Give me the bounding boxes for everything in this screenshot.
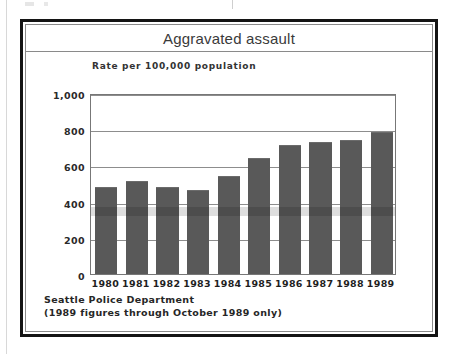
chart-title-band: Aggravated assault (26, 25, 432, 52)
chart-body: Rate per 100,000 population 020040060080… (26, 52, 432, 331)
x-axis-tick-label-1981: 1981 (122, 278, 150, 289)
chart-title: Aggravated assault (163, 30, 295, 47)
x-axis-tick-label-1987: 1987 (306, 278, 334, 289)
y-axis-tick-label: 1,000 (53, 90, 85, 101)
bar-1984 (218, 176, 240, 274)
x-axis-tick-label-1986: 1986 (275, 278, 303, 289)
x-axis-tick-label-1985: 1985 (244, 278, 272, 289)
y-axis-tick-label: 0 (78, 271, 85, 282)
bar-1980 (95, 187, 117, 274)
scan-artifact-left-edge (6, 0, 7, 354)
scan-artifact-speck-a (25, 2, 34, 6)
y-axis-unit-label: Rate per 100,000 population (92, 61, 256, 71)
source-line-2: (1989 figures through October 1989 only) (44, 306, 282, 319)
source-note: Seattle Police Department(1989 figures t… (44, 293, 282, 319)
bar-1986 (279, 145, 301, 274)
x-axis-tick-label-1989: 1989 (367, 278, 395, 289)
x-axis-tick-label-1988: 1988 (336, 278, 364, 289)
x-axis-tick-label-1980: 1980 (91, 278, 119, 289)
y-axis-tick-label: 200 (64, 234, 85, 245)
x-axis-tick-labels: 1980198119821983198419851986198719881989 (90, 278, 396, 294)
y-axis-tick-label: 800 (64, 126, 85, 137)
figure-inner-border: Aggravated assault Rate per 100,000 popu… (25, 24, 433, 332)
bar-1989 (371, 132, 393, 274)
bar-1983 (187, 190, 209, 274)
y-axis-tick-label: 400 (64, 198, 85, 209)
bar-1982 (156, 187, 178, 274)
bar-1985 (248, 158, 270, 274)
source-line-1: Seattle Police Department (44, 293, 282, 306)
bar-1988 (340, 140, 362, 274)
scan-artifact-speck-b (44, 2, 48, 6)
figure-frame: Aggravated assault Rate per 100,000 popu… (20, 19, 438, 337)
x-axis-tick-label-1982: 1982 (153, 278, 181, 289)
scan-artifact-top-mark (232, 0, 233, 9)
bars-group (91, 95, 395, 274)
x-axis-tick-label-1984: 1984 (214, 278, 242, 289)
y-axis-tick-label: 600 (64, 162, 85, 173)
x-axis-tick-label-1983: 1983 (183, 278, 211, 289)
bar-1987 (309, 142, 331, 274)
bar-1981 (126, 181, 148, 274)
plot-area: 02004006008001,000 (90, 94, 396, 275)
